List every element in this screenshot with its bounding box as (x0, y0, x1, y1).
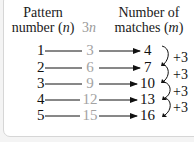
row-3-m: 10 (140, 76, 155, 91)
difference-3: +3 (173, 85, 188, 99)
row-1-3n: 3 (79, 43, 101, 58)
row-4-n: 4 (37, 92, 45, 107)
difference-4: +3 (173, 101, 188, 115)
row-2-m: 7 (144, 60, 152, 75)
difference-1: +3 (173, 51, 188, 65)
row-5-3n: 15 (79, 108, 101, 123)
row-3-n: 3 (37, 76, 45, 91)
row-2-3n: 6 (79, 60, 101, 75)
row-2-n: 2 (37, 60, 45, 75)
row-3-3n: 9 (79, 76, 101, 91)
difference-2: +3 (173, 68, 188, 82)
row-5-m: 16 (140, 108, 155, 123)
row-5-n: 5 (37, 108, 45, 123)
row-1-m: 4 (144, 43, 152, 58)
row-1-n: 1 (37, 43, 45, 58)
row-4-m: 13 (140, 92, 155, 107)
row-4-3n: 12 (79, 92, 101, 107)
